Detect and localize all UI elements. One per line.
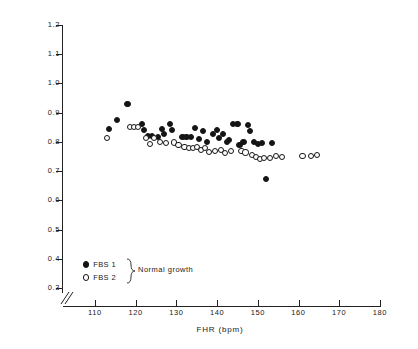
legend-label-fbs-1: FBS 1: [93, 260, 116, 269]
data-point-fbs-2: [194, 144, 200, 150]
y-tick-label: 1.1: [20, 50, 60, 58]
data-point-fbs-1: [216, 135, 222, 141]
data-point-fbs-2: [147, 141, 153, 147]
data-point-fbs-1: [114, 117, 120, 123]
data-point-fbs-2: [273, 153, 279, 159]
legend-label-fbs-2: FBS 2: [93, 273, 116, 282]
data-point-fbs-1: [155, 134, 161, 140]
data-point-fbs-2: [181, 144, 187, 150]
data-point-fbs-2: [206, 149, 212, 155]
x-tick-label: 180: [363, 309, 397, 317]
data-point-fbs-1: [124, 101, 130, 107]
data-point-fbs-2: [279, 154, 285, 160]
data-point-fbs-1: [159, 126, 165, 132]
data-point-fbs-1: [245, 122, 251, 128]
data-point-fbs-1: [240, 139, 246, 145]
data-point-fbs-1: [149, 133, 155, 139]
data-point-fbs-2: [228, 148, 234, 154]
y-tick-label: 1.2: [20, 21, 60, 29]
x-tick-mark: [136, 300, 137, 306]
data-point-fbs-2: [257, 156, 263, 162]
data-point-fbs-1: [139, 121, 145, 127]
data-point-fbs-1: [214, 127, 220, 133]
data-point-fbs-2: [135, 124, 141, 130]
data-point-fbs-2: [157, 139, 163, 145]
x-tick-mark: [339, 300, 340, 306]
data-point-fbs-1: [161, 131, 167, 137]
data-point-fbs-2: [127, 124, 133, 130]
data-point-fbs-2: [299, 153, 305, 159]
data-point-fbs-2: [238, 148, 244, 154]
y-tick-label: 0.5: [20, 226, 60, 234]
data-point-fbs-2: [163, 140, 169, 146]
data-point-fbs-1: [192, 125, 198, 131]
axis-break-icon: [58, 288, 80, 310]
data-point-fbs-1: [183, 134, 189, 140]
y-axis-line: [62, 25, 63, 293]
data-point-fbs-2: [267, 155, 273, 161]
data-point-fbs-2: [308, 153, 314, 159]
data-point-fbs-1: [247, 128, 253, 134]
legend-group-label: Normal growth: [138, 265, 193, 274]
data-point-fbs-2: [186, 145, 192, 151]
chart-figure: 0.30.40.50.60.70.80.91.01.11.21.31.41.51…: [0, 0, 418, 349]
data-point-fbs-2: [218, 147, 224, 153]
chart-legend: FBS 1 FBS 2: [83, 258, 116, 284]
data-point-fbs-2: [222, 150, 228, 156]
data-point-fbs-2: [175, 142, 181, 148]
x-tick-mark: [217, 300, 218, 306]
data-point-fbs-1: [200, 128, 206, 134]
legend-item-fbs-2: FBS 2: [83, 271, 116, 284]
filled-circle-icon: [83, 261, 89, 267]
data-point-fbs-1: [230, 121, 236, 127]
data-point-fbs-1: [141, 127, 147, 133]
data-point-fbs-1: [167, 121, 173, 127]
y-tick-label: 0.8: [20, 138, 60, 146]
data-point-fbs-1: [106, 126, 112, 132]
x-tick-mark: [176, 300, 177, 306]
y-tick-label: 0.4: [20, 255, 60, 263]
y-tick-label: 0.3: [20, 284, 60, 292]
data-point-fbs-1: [196, 136, 202, 142]
y-tick-label: 0.7: [20, 167, 60, 175]
data-point-fbs-1: [236, 142, 242, 148]
x-axis-line: [63, 306, 381, 307]
data-point-fbs-2: [131, 124, 137, 130]
data-point-fbs-2: [249, 152, 255, 158]
data-point-fbs-1: [226, 137, 232, 143]
data-point-fbs-2: [261, 155, 267, 161]
x-tick-label: 150: [241, 309, 275, 317]
legend-item-fbs-1: FBS 1: [83, 258, 116, 271]
data-point-fbs-2: [104, 135, 110, 141]
data-point-fbs-1: [255, 141, 261, 147]
data-point-fbs-2: [151, 135, 157, 141]
data-point-fbs-1: [220, 131, 226, 137]
data-point-fbs-1: [269, 140, 275, 146]
data-point-fbs-1: [169, 127, 175, 133]
data-point-fbs-1: [188, 134, 194, 140]
x-tick-label: 120: [119, 309, 153, 317]
data-point-fbs-1: [263, 176, 269, 182]
data-point-fbs-2: [242, 149, 248, 155]
x-tick-mark: [258, 300, 259, 306]
data-point-fbs-2: [190, 145, 196, 151]
data-point-fbs-1: [224, 139, 230, 145]
data-point-fbs-2: [253, 154, 259, 160]
data-point-fbs-1: [251, 139, 257, 145]
data-point-fbs-1: [210, 131, 216, 137]
x-axis-title: FHR (bpm): [150, 325, 290, 334]
data-point-fbs-2: [212, 148, 218, 154]
data-point-fbs-2: [171, 139, 177, 145]
data-point-fbs-1: [179, 134, 185, 140]
y-tick-label: 1.0: [20, 79, 60, 87]
data-point-fbs-1: [145, 133, 151, 139]
x-tick-label: 170: [322, 309, 356, 317]
open-circle-icon: [83, 274, 89, 280]
legend-brace-icon: [126, 258, 136, 284]
y-tick-label: 0.6: [20, 196, 60, 204]
x-tick-mark: [95, 300, 96, 306]
y-tick-label: 0.9: [20, 109, 60, 117]
data-point-fbs-1: [259, 140, 265, 146]
x-tick-mark: [380, 300, 381, 306]
x-tick-mark: [299, 300, 300, 306]
